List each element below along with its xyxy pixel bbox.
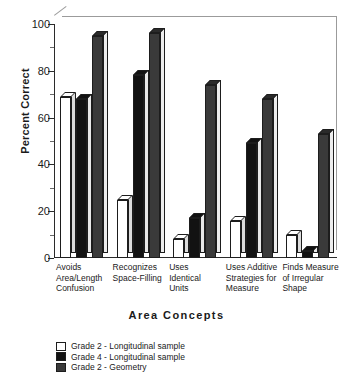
bar [246,143,257,258]
legend-swatch [56,342,66,351]
bar-face [133,75,144,258]
bar-side [128,195,133,254]
bar-face [189,218,200,258]
bar-group [111,24,168,258]
x-category-label: Finds Measure of Irregular Shape [282,262,345,294]
bar-face [76,99,87,258]
bar [205,85,216,258]
bar-side [144,70,149,253]
legend-item: Grade 2 - Longitudinal sample [56,341,185,352]
bar [92,36,103,258]
bar-face [205,85,216,258]
x-category-label: Recognizes Space-Filling [113,262,176,283]
legend-label: Grade 2 - Longitudinal sample [71,341,185,351]
plot-area: 020406080100 [54,24,337,258]
bar-chart: Percent Correct 020406080100 Avoids Area… [0,0,353,373]
bar [76,99,87,258]
bar [302,251,313,258]
bar-side [329,129,334,253]
bar-face [173,239,184,258]
bar-side [71,92,76,253]
bar-group [280,24,337,258]
bar-group [54,24,111,258]
bar [149,33,160,258]
bar-face [286,235,297,258]
chart-legend: Grade 2 - Longitudinal sampleGrade 4 - L… [56,341,185,373]
bar [117,200,128,259]
plot-depth-edge [54,15,66,24]
bar-side [257,138,262,253]
y-tick-label: 100 [20,18,50,30]
bar-face [302,251,313,258]
x-axis-title: Area Concepts [0,309,353,321]
plot-back-top-edge [62,16,337,17]
bar-side [87,94,92,253]
bar [173,239,184,258]
bar [133,75,144,258]
bar-face [318,134,329,258]
bar-side [103,31,108,253]
bar [230,221,241,258]
legend-swatch [56,363,66,372]
legend-swatch [56,352,66,361]
bar-face [92,36,103,258]
bar-group [167,24,224,258]
y-tick-label: 40 [20,158,50,170]
bar [189,218,200,258]
bar [60,97,71,258]
y-tick-label: 80 [20,65,50,77]
bar-face [230,221,241,258]
legend-label: Grade 2 - Geometry [71,362,147,372]
bar-side [241,216,246,253]
bar-side [216,80,221,253]
bar-face [246,143,257,258]
bar [262,99,273,258]
legend-item: Grade 2 - Geometry [56,362,185,373]
bar-group [224,24,281,258]
bar [318,134,329,258]
bar-groups [54,24,337,258]
x-category-label: Avoids Area/Length Confusion [56,262,119,294]
bar-face [117,200,128,259]
x-category-label: Uses Additive Strategies for Measure [226,262,289,294]
bar-face [60,97,71,258]
bar-face [262,99,273,258]
bar-face [149,33,160,258]
legend-label: Grade 4 - Longitudinal sample [71,352,185,362]
y-tick-label: 20 [20,205,50,217]
bar [286,235,297,258]
x-axis-category-labels: Avoids Area/Length ConfusionRecognizes S… [54,262,353,306]
y-tick-label: 60 [20,112,50,124]
legend-item: Grade 4 - Longitudinal sample [56,352,185,363]
bar-side [273,94,278,253]
bar-side [200,213,205,253]
x-category-label: Uses Identical Units [169,262,232,294]
y-tick-label: 0 [20,252,50,264]
bar-side [160,28,165,253]
